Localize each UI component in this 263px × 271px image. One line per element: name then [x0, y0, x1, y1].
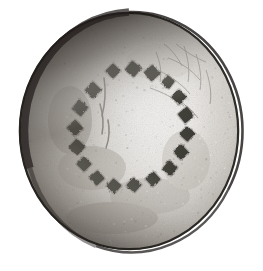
artifact-photograph: [0, 0, 263, 271]
image-canvas: [0, 0, 263, 271]
